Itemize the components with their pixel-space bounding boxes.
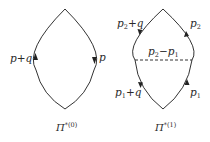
momentum-label-p2-plus-q: p2+q [117,17,144,31]
feynman-diagrams-figure: p+q p Π*(0) p2+q p2 p2−p1 p1+q p1 Π*(1) [0,0,210,142]
momentum-label-p: p [99,51,106,63]
caption-pi1: Π*(1) [154,121,177,133]
fermion-line-right [65,9,97,109]
diagram-pi1: p2+q p2 p2−p1 p1+q p1 Π*(1) [115,9,201,133]
momentum-label-p1: p1 [190,86,201,100]
momentum-label-p2-minus-p1: p2−p1 [148,45,179,59]
momentum-label-p2: p2 [190,17,201,31]
momentum-label-p1-plus-q: p1+q [115,86,142,100]
momentum-label-p-plus-q: p+q [10,52,33,64]
fermion-line-left [33,9,65,109]
diagram-pi0: p+q p Π*(0) [10,9,106,133]
caption-pi0: Π*(0) [55,121,78,133]
